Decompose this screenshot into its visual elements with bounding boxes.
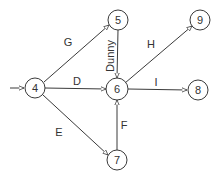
node-label-4: 4 xyxy=(32,82,38,94)
node-9: 9 xyxy=(190,10,210,30)
edge-label-D: D xyxy=(73,75,81,87)
diagram-canvas: G D E Dunny H I F 4 5 9 6 8 7 xyxy=(0,0,223,181)
edge-D-4-6 xyxy=(45,88,106,89)
node-8: 8 xyxy=(188,80,208,100)
node-label-7: 7 xyxy=(114,154,120,166)
node-6: 6 xyxy=(106,78,128,100)
node-5: 5 xyxy=(108,10,128,30)
edge-label-E: E xyxy=(55,126,62,138)
edge-I-6-8 xyxy=(128,89,187,90)
edge-dunny-5-6 xyxy=(117,30,118,78)
edge-label-H: H xyxy=(147,38,155,50)
edge-G-4-5 xyxy=(44,25,109,82)
edge-label-F: F xyxy=(121,119,128,131)
edge-H-6-9 xyxy=(125,26,192,83)
node-label-8: 8 xyxy=(195,84,201,96)
edge-label-dunny: Dunny xyxy=(104,40,116,72)
node-label-9: 9 xyxy=(197,14,203,26)
node-7: 7 xyxy=(107,150,127,170)
node-label-5: 5 xyxy=(115,14,121,26)
edge-E-4-7 xyxy=(43,95,108,155)
edge-label-I: I xyxy=(154,76,157,88)
edge-label-G: G xyxy=(64,36,73,48)
node-label-6: 6 xyxy=(114,83,120,95)
node-4: 4 xyxy=(25,78,45,98)
network-diagram: G D E Dunny H I F 4 5 9 6 8 7 xyxy=(0,0,223,181)
